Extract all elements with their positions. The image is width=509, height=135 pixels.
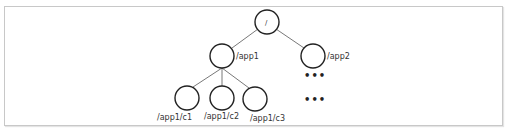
node-app2	[301, 44, 325, 68]
ellipsis-app2-children: •••	[304, 70, 326, 81]
node-app1-c2	[210, 86, 234, 110]
tree-diagram: / /app1 /app2 /app1/c1 /app1/c2 /app1/c3…	[0, 0, 509, 135]
edge-root-app2	[276, 29, 304, 48]
ellipsis-more-nodes: •••	[304, 94, 326, 105]
label-app1: /app1	[236, 52, 259, 61]
node-app1-c3	[243, 87, 267, 111]
label-app1-c2: /app1/c2	[204, 112, 239, 121]
node-app1	[210, 44, 234, 68]
edge-app1-c3	[222, 68, 249, 88]
node-app1-c1	[175, 86, 199, 110]
edge-root-app1	[232, 29, 258, 48]
label-app1-c1: /app1/c1	[157, 113, 192, 122]
edge-app1-c1	[193, 68, 222, 87]
label-app1-c3: /app1/c3	[250, 114, 285, 123]
label-app2: /app2	[327, 52, 350, 61]
